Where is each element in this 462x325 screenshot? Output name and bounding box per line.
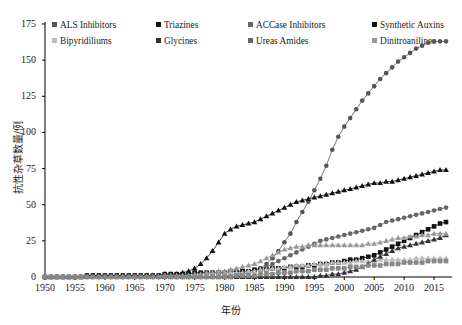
data-point-marker bbox=[437, 235, 443, 240]
data-point-marker bbox=[372, 263, 377, 268]
data-point-marker bbox=[431, 231, 437, 236]
data-point-marker bbox=[426, 40, 431, 45]
data-point-marker bbox=[402, 215, 407, 220]
data-point-marker bbox=[390, 262, 395, 267]
data-point-marker bbox=[432, 224, 437, 229]
data-point-marker bbox=[372, 226, 377, 231]
data-point-marker bbox=[360, 98, 365, 103]
data-point-marker bbox=[444, 259, 449, 264]
data-point-marker bbox=[444, 220, 449, 225]
data-point-marker bbox=[270, 210, 276, 215]
data-point-marker bbox=[389, 257, 395, 262]
data-point-marker bbox=[258, 216, 264, 221]
data-point-marker bbox=[317, 273, 323, 278]
data-point-marker bbox=[288, 253, 293, 258]
data-point-marker bbox=[426, 259, 431, 264]
data-point-marker bbox=[443, 231, 449, 236]
data-point-marker bbox=[395, 257, 401, 262]
data-point-marker bbox=[288, 270, 293, 275]
data-point-marker bbox=[323, 242, 329, 247]
data-point-marker bbox=[438, 259, 443, 264]
data-point-marker bbox=[414, 260, 419, 265]
data-point-marker bbox=[103, 275, 108, 280]
data-point-marker bbox=[336, 266, 341, 271]
data-point-marker bbox=[378, 223, 383, 228]
data-point-marker bbox=[383, 257, 389, 262]
data-point-marker bbox=[437, 167, 443, 172]
data-point-marker bbox=[282, 240, 287, 245]
data-point-marker bbox=[79, 275, 84, 280]
data-point-marker bbox=[329, 242, 335, 247]
data-point-marker bbox=[342, 233, 347, 238]
data-point-marker bbox=[408, 214, 413, 219]
data-point-marker bbox=[335, 242, 341, 247]
data-point-marker bbox=[252, 273, 257, 278]
data-point-marker bbox=[336, 134, 341, 139]
data-point-marker bbox=[264, 255, 270, 260]
data-point-marker bbox=[372, 84, 377, 89]
data-point-marker bbox=[318, 267, 323, 272]
data-point-marker bbox=[132, 275, 137, 280]
data-point-marker bbox=[330, 147, 335, 152]
data-point-marker bbox=[287, 202, 293, 207]
data-point-marker bbox=[396, 217, 401, 222]
plot-area bbox=[0, 0, 462, 325]
data-point-marker bbox=[288, 231, 293, 236]
data-point-marker bbox=[43, 275, 48, 280]
data-point-marker bbox=[353, 242, 359, 247]
data-point-marker bbox=[402, 260, 407, 265]
data-point-marker bbox=[162, 275, 167, 280]
data-point-marker bbox=[109, 275, 114, 280]
data-point-marker bbox=[318, 176, 323, 181]
data-point-marker bbox=[336, 234, 341, 239]
data-point-marker bbox=[126, 275, 131, 280]
x-axis-title: 年份 bbox=[0, 302, 462, 317]
data-point-marker bbox=[121, 275, 126, 280]
data-point-marker bbox=[204, 275, 209, 280]
data-point-marker bbox=[438, 39, 443, 44]
data-point-marker bbox=[228, 226, 234, 231]
data-point-marker bbox=[282, 256, 287, 261]
data-point-marker bbox=[270, 272, 275, 277]
data-point-marker bbox=[317, 242, 323, 247]
data-point-marker bbox=[354, 107, 359, 112]
data-point-marker bbox=[306, 269, 311, 274]
data-point-marker bbox=[216, 275, 221, 280]
data-point-marker bbox=[97, 275, 102, 280]
data-point-marker bbox=[383, 179, 389, 184]
data-point-marker bbox=[252, 261, 258, 266]
data-point-marker bbox=[420, 260, 425, 265]
data-point-marker bbox=[138, 275, 143, 280]
data-point-marker bbox=[264, 213, 270, 218]
data-point-marker bbox=[156, 275, 161, 280]
data-point-marker bbox=[305, 242, 311, 247]
data-point-marker bbox=[192, 275, 197, 280]
data-point-marker bbox=[366, 91, 371, 96]
data-point-marker bbox=[150, 275, 155, 280]
data-point-marker bbox=[61, 275, 66, 280]
data-point-marker bbox=[312, 267, 317, 272]
series-als-inhibitors bbox=[43, 39, 449, 279]
data-point-marker bbox=[324, 163, 329, 168]
data-point-marker bbox=[216, 239, 222, 244]
data-point-marker bbox=[282, 270, 287, 275]
data-point-marker bbox=[168, 275, 173, 280]
data-point-marker bbox=[408, 260, 413, 265]
data-point-marker bbox=[246, 273, 251, 278]
data-point-marker bbox=[276, 259, 281, 264]
data-point-marker bbox=[444, 205, 449, 210]
data-point-marker bbox=[390, 218, 395, 223]
data-point-marker bbox=[210, 275, 215, 280]
data-point-marker bbox=[55, 275, 60, 280]
data-point-marker bbox=[437, 231, 443, 236]
data-point-marker bbox=[426, 227, 431, 232]
data-point-marker bbox=[366, 263, 371, 268]
data-point-marker bbox=[91, 275, 96, 280]
data-point-marker bbox=[354, 230, 359, 235]
data-point-marker bbox=[252, 219, 258, 224]
data-point-marker bbox=[324, 267, 329, 272]
data-point-marker bbox=[408, 51, 413, 56]
data-point-marker bbox=[432, 39, 437, 44]
data-point-marker bbox=[402, 55, 407, 60]
data-point-marker bbox=[294, 250, 299, 255]
